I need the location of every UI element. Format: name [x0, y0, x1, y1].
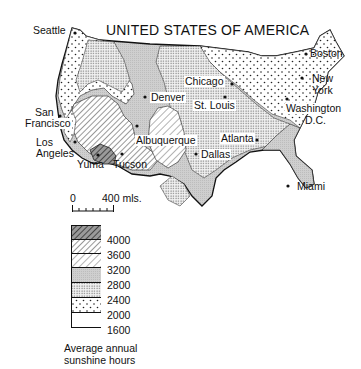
legend-tick-2400: 2400	[107, 294, 130, 306]
city-label-denver: Denver	[150, 92, 186, 103]
city-label-boston: Boston	[310, 48, 343, 59]
city-label-new-york-2: York	[312, 85, 333, 96]
city-label-chicago: Chicago	[184, 76, 225, 87]
legend-tick-3600: 3600	[107, 249, 130, 261]
scale-ruler	[72, 205, 116, 213]
city-label-new-york-1: New	[312, 73, 333, 84]
city-label-albuquerque: Albuquerque	[135, 135, 197, 146]
legend-tick-1600: 1600	[107, 324, 130, 336]
legend-caption-line1: Average annual	[64, 342, 174, 354]
city-label-st-louis: St. Louis	[193, 100, 236, 111]
legend-tick-2800: 2800	[107, 279, 130, 291]
city-label-dallas: Dallas	[200, 149, 231, 160]
legend-tick-4000: 4000	[107, 234, 130, 246]
city-label-yuma: Yuma	[77, 159, 104, 170]
city-label-tucson: Tucson	[113, 159, 147, 170]
legend-tick-3200: 3200	[107, 264, 130, 276]
scale-end-label: 400 mls.	[102, 192, 142, 204]
city-label-washington-2: D.C.	[305, 115, 326, 126]
city-label-miami: Miami	[297, 181, 325, 192]
city-label-seattle: Seattle	[33, 25, 66, 36]
legend-swatches	[71, 225, 101, 329]
city-label-los-angeles-2: Angeles	[36, 148, 74, 159]
city-label-san-francisco-2: Francisco	[24, 118, 72, 129]
legend-caption-line2: sunshine hours	[64, 354, 174, 366]
legend-tick-2000: 2000	[107, 309, 130, 321]
city-label-atlanta: Atlanta	[220, 133, 255, 144]
scale-start-label: 0	[70, 192, 76, 204]
legend-caption: Average annual sunshine hours	[64, 342, 174, 366]
city-label-washington-1: Washington	[285, 103, 342, 114]
